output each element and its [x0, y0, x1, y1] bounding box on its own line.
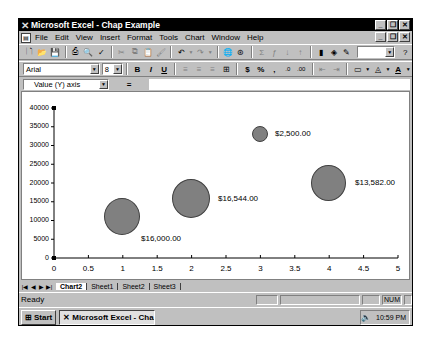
menu-format[interactable]: Format — [127, 33, 152, 42]
format-painter-icon[interactable]: 🖌 — [155, 46, 167, 59]
tab-chart2[interactable]: Chart2 — [56, 283, 87, 290]
autosum-icon[interactable]: Σ — [256, 46, 268, 59]
redo-dropdown-icon[interactable]: ▼ — [208, 46, 213, 59]
borders-icon[interactable]: ▭ — [351, 63, 363, 76]
open-icon[interactable]: 📂 — [36, 46, 48, 59]
redo-icon[interactable]: ↷ — [195, 46, 207, 59]
chevron-down-icon[interactable]: ▼ — [90, 64, 99, 74]
align-right-icon[interactable]: ≡ — [206, 63, 218, 76]
equals-button[interactable]: = — [109, 80, 149, 89]
doc-close-button[interactable]: ✕ — [399, 32, 410, 42]
comma-button[interactable]: , — [268, 63, 280, 76]
menu-file[interactable]: File — [35, 33, 48, 42]
menu-tools[interactable]: Tools — [159, 33, 178, 42]
chevron-down-icon[interactable]: ▼ — [99, 80, 108, 89]
name-box[interactable]: Value (Y) axis ▼ — [23, 79, 109, 90]
spelling-icon[interactable]: ✓ — [95, 46, 107, 59]
chart-area[interactable]: 40000 35000 30000 25000 20000 15000 1000… — [21, 91, 410, 280]
decrease-indent-icon[interactable]: ⇤ — [317, 63, 329, 76]
italic-button[interactable]: I — [145, 63, 157, 76]
office-assistant-icon[interactable]: ? — [399, 46, 411, 59]
font-color-dropdown-icon[interactable]: ▼ — [405, 63, 411, 76]
new-icon[interactable]: 🗋 — [23, 46, 35, 59]
copy-icon[interactable]: ⧉ — [129, 46, 141, 59]
num-lock-indicator: NUM — [382, 295, 402, 305]
print-icon[interactable]: ⎙ — [70, 46, 82, 59]
separator — [126, 63, 128, 75]
doc-restore-button[interactable]: ❐ — [387, 32, 398, 42]
underline-button[interactable]: U — [158, 63, 170, 76]
insert-hyperlink-icon[interactable]: 🌐 — [222, 46, 234, 59]
decrease-decimal-icon[interactable]: .00 — [295, 63, 307, 76]
increase-indent-icon[interactable]: ⇥ — [330, 63, 342, 76]
close-button[interactable]: ✕ — [399, 20, 410, 30]
restore-button[interactable]: ❐ — [387, 20, 398, 30]
menu-help[interactable]: Help — [247, 33, 263, 42]
sort-ascending-icon[interactable]: ↓ — [281, 46, 293, 59]
bubble-point[interactable] — [252, 126, 268, 142]
doc-minimize-button[interactable]: _ — [375, 32, 386, 42]
document-icon[interactable]: ▤ — [21, 33, 31, 43]
x-tick-label: 2 — [182, 264, 202, 273]
taskbar-excel-button[interactable]: ✕ Microsoft Excel - Cha... — [59, 310, 155, 325]
undo-dropdown-icon[interactable]: ▼ — [188, 46, 193, 59]
align-left-icon[interactable]: ≡ — [179, 63, 191, 76]
menu-window[interactable]: Window — [212, 33, 240, 42]
start-button[interactable]: ⊞ Start — [21, 310, 56, 325]
chevron-down-icon[interactable]: ▼ — [385, 47, 394, 57]
print-preview-icon[interactable]: 🔍 — [82, 46, 94, 59]
save-icon[interactable]: 💾 — [49, 46, 61, 59]
speaker-icon[interactable]: 🔈 — [361, 313, 371, 322]
status-bar: Ready NUM — [19, 292, 412, 306]
x-tick-label: 0 — [44, 264, 64, 273]
cut-icon[interactable]: ✂ — [116, 46, 128, 59]
merge-center-icon[interactable]: ⊞ — [220, 63, 232, 76]
percent-button[interactable]: % — [255, 63, 267, 76]
increase-decimal-icon[interactable]: .0 — [282, 63, 294, 76]
chevron-down-icon[interactable]: ▼ — [113, 64, 122, 74]
y-tick-label: 30000 — [19, 141, 49, 148]
drawing-icon[interactable]: ✎ — [341, 46, 353, 59]
tab-sheet2[interactable]: Sheet2 — [118, 283, 149, 290]
paste-function-icon[interactable]: ƒ — [269, 46, 281, 59]
bold-button[interactable]: B — [131, 63, 143, 76]
map-icon[interactable]: ◈ — [328, 46, 340, 59]
font-color-icon[interactable]: A — [392, 63, 404, 76]
data-label[interactable]: $16,544.00 — [218, 194, 258, 203]
y-tick-label: 10000 — [19, 216, 49, 223]
y-tick-label: 40000 — [19, 104, 49, 111]
bubble-point[interactable] — [311, 165, 346, 201]
separator — [251, 46, 253, 58]
borders-dropdown-icon[interactable]: ▼ — [365, 63, 371, 76]
undo-icon[interactable]: ↶ — [175, 46, 187, 59]
menu-bar: ▤ File Edit View Insert Format Tools Cha… — [19, 31, 412, 44]
font-size-combo[interactable]: 8 ▼ — [102, 63, 123, 75]
menu-view[interactable]: View — [76, 33, 93, 42]
web-toolbar-icon[interactable]: ⊛ — [235, 46, 247, 59]
menu-edit[interactable]: Edit — [55, 33, 69, 42]
zoom-combo[interactable]: ▼ — [357, 46, 396, 58]
last-sheet-icon[interactable]: ▶| — [45, 283, 53, 290]
align-center-icon[interactable]: ≡ — [193, 63, 205, 76]
bubble-point[interactable] — [104, 198, 140, 235]
prev-sheet-icon[interactable]: ◀ — [29, 283, 37, 290]
tab-sheet1[interactable]: Sheet1 — [87, 283, 118, 290]
bubble-point[interactable] — [172, 179, 210, 218]
formula-input[interactable] — [149, 79, 410, 90]
minimize-button[interactable]: _ — [375, 20, 386, 30]
font-name-combo[interactable]: Arial ▼ — [23, 63, 100, 75]
menu-chart[interactable]: Chart — [185, 33, 205, 42]
fill-color-dropdown-icon[interactable]: ▼ — [385, 63, 391, 76]
tab-sheet3[interactable]: Sheet3 — [150, 283, 181, 290]
data-label[interactable]: $2,500.00 — [275, 129, 311, 138]
data-label[interactable]: $13,582.00 — [355, 178, 395, 187]
menu-insert[interactable]: Insert — [100, 33, 120, 42]
chart-wizard-icon[interactable]: ▮ — [315, 46, 327, 59]
paste-icon[interactable]: 📋 — [142, 46, 154, 59]
fill-color-icon[interactable]: ◬ — [372, 63, 384, 76]
next-sheet-icon[interactable]: ▶ — [37, 283, 45, 290]
first-sheet-icon[interactable]: |◀ — [21, 283, 29, 290]
currency-button[interactable]: $ — [241, 63, 253, 76]
sort-descending-icon[interactable]: ↑ — [294, 46, 306, 59]
data-label[interactable]: $16,000.00 — [141, 234, 181, 243]
